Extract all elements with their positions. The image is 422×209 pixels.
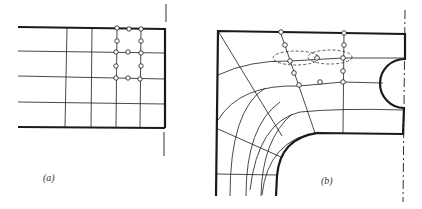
caption-b: (b) <box>321 175 333 186</box>
dashed-loops <box>273 50 352 65</box>
panel-a-nodes <box>114 26 143 81</box>
mesh-diagram <box>0 0 422 209</box>
caption-a: (a) <box>43 172 55 183</box>
panel-b-mesh <box>216 10 405 202</box>
panel-a-mesh <box>18 4 166 156</box>
